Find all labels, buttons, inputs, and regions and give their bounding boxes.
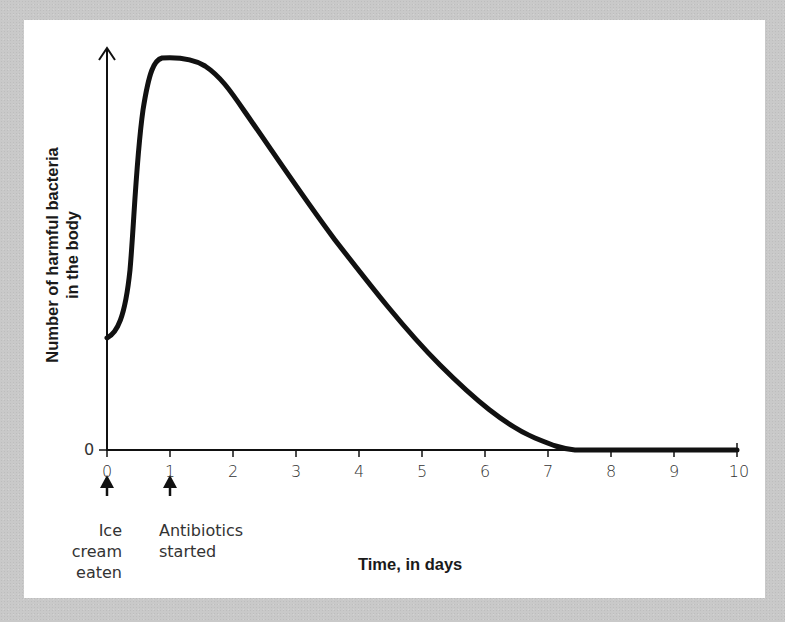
x-tick-label: 8 bbox=[606, 462, 616, 481]
x-tick-label: 7 bbox=[543, 462, 553, 481]
y-tick-label-zero: 0 bbox=[84, 440, 94, 459]
y-axis-title-line2: in the body bbox=[62, 147, 82, 362]
x-tick-label: 6 bbox=[480, 462, 490, 481]
x-tick-label: 2 bbox=[228, 462, 238, 481]
annotation-line: Antibiotics bbox=[159, 520, 243, 541]
y-axis-title-line1: Number of harmful bacteria bbox=[42, 147, 62, 362]
annotation-line: cream bbox=[72, 541, 122, 562]
bacteria-curve bbox=[107, 58, 737, 450]
annotation-line: started bbox=[159, 541, 243, 562]
x-tick-label: 3 bbox=[291, 462, 301, 481]
x-tick-label: 10 bbox=[729, 462, 749, 481]
x-tick-label: 1 bbox=[165, 462, 175, 481]
x-tick-label: 4 bbox=[354, 462, 364, 481]
annotation-antibiotics-started: Antibiotics started bbox=[159, 520, 243, 562]
x-tick-label: 5 bbox=[417, 462, 427, 481]
x-axis-title: Time, in days bbox=[358, 555, 462, 574]
annotation-line: Ice bbox=[72, 520, 122, 541]
x-tick-label: 0 bbox=[102, 462, 112, 481]
annotation-line: eaten bbox=[72, 562, 122, 583]
annotation-ice-cream-eaten: Ice cream eaten bbox=[72, 520, 122, 583]
x-tick-label: 9 bbox=[669, 462, 679, 481]
